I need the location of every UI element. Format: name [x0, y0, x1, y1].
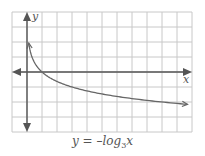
y-axis-label: y [31, 10, 39, 23]
y-axis-up-arrow-icon [23, 12, 31, 21]
caption-var: x [126, 134, 133, 148]
x-axis-label: x [183, 73, 190, 86]
graph: x y [0, 0, 205, 134]
y-axis-down-arrow-icon [23, 123, 31, 132]
function-curve [29, 43, 188, 104]
curve-arrow-icons [27, 43, 188, 106]
function-caption: y = –log3x [0, 134, 205, 150]
caption-prefix: y = –log [72, 134, 121, 148]
x-axis-left-arrow-icon [12, 68, 21, 76]
